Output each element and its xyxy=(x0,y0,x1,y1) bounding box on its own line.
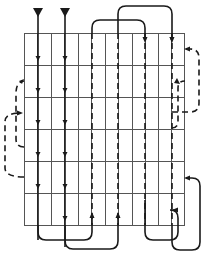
flow-path-diagram xyxy=(0,0,211,257)
left-loops xyxy=(5,81,24,177)
right-loop-lower-2 xyxy=(172,81,185,128)
left-loop-lower xyxy=(5,113,24,177)
right-loops xyxy=(172,49,199,140)
grid-rows xyxy=(24,66,184,194)
bottom-loop-right-outer xyxy=(172,178,200,250)
bottom-loop-right-inner xyxy=(145,200,178,240)
right-loop-lower xyxy=(185,81,192,140)
left-loop-arrows xyxy=(17,79,24,116)
grid xyxy=(24,33,185,226)
